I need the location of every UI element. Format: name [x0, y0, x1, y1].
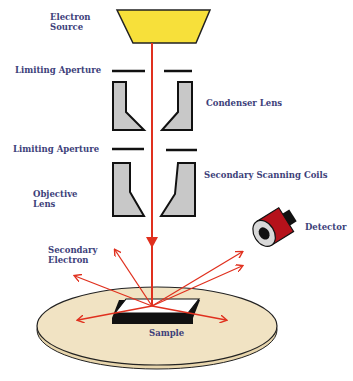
- label-sample: Sample: [149, 328, 185, 338]
- label-objective-lens: Objective: [33, 189, 78, 199]
- sem-diagram: Electron Source Limiting Aperture Conden…: [0, 0, 353, 381]
- label-detector: Detector: [305, 222, 347, 232]
- limiting-aperture-bottom: [112, 149, 197, 150]
- label-objective-lens-2: Lens: [33, 199, 56, 209]
- electron-source-icon: [117, 10, 210, 43]
- beam-direction-arrow-icon: [146, 237, 158, 248]
- label-limiting-aperture-bottom: Limiting Aperture: [13, 144, 100, 154]
- label-electron-source: Electron: [50, 12, 91, 22]
- label-secondary-scanning-coils: Secondary Scanning Coils: [204, 170, 328, 180]
- detector-icon: [248, 204, 300, 251]
- label-secondary-electron: Secondary: [48, 245, 99, 255]
- label-electron-source-2: Source: [50, 22, 84, 32]
- label-secondary-electron-2: Electron: [48, 255, 89, 265]
- label-condenser-lens: Condenser Lens: [206, 98, 282, 108]
- label-limiting-aperture-top: Limiting Aperture: [15, 65, 102, 75]
- objective-lens: [113, 163, 195, 216]
